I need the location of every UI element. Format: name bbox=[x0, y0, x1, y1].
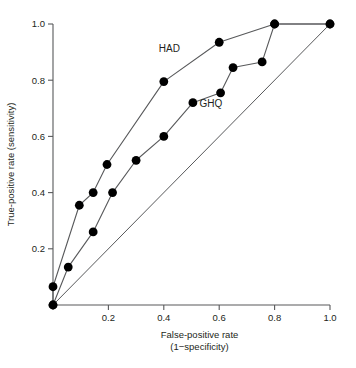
y-tick-label-0.4: 0.4 bbox=[32, 187, 45, 198]
annotation-had: HAD bbox=[159, 43, 180, 54]
point-had-6 bbox=[215, 38, 224, 47]
x-tick-label-0.4: 0.4 bbox=[157, 312, 170, 323]
point-ghq-6 bbox=[188, 98, 197, 107]
point-had-5 bbox=[159, 77, 168, 86]
y-tick-label-1.0: 1.0 bbox=[32, 18, 45, 29]
chance-diagonal bbox=[53, 24, 330, 305]
x-tick-label-0.2: 0.2 bbox=[102, 312, 115, 323]
y-tick-label-0.8: 0.8 bbox=[32, 75, 45, 86]
annotation-ghq: GHQ bbox=[199, 98, 222, 109]
point-ghq-2 bbox=[89, 228, 98, 237]
point-ghq-4 bbox=[132, 156, 141, 165]
x-tick-label-1.0: 1.0 bbox=[323, 312, 336, 323]
y-tick-label-0.2: 0.2 bbox=[32, 243, 45, 254]
x-axis-title: False-positive rate bbox=[161, 329, 239, 340]
y-axis-title: True-positive rate (sensitivity) bbox=[5, 103, 16, 227]
point-ghq-11 bbox=[326, 20, 335, 29]
y-tick-label-0.6: 0.6 bbox=[32, 131, 45, 142]
point-had-3 bbox=[89, 188, 98, 197]
point-had-4 bbox=[103, 160, 112, 169]
point-ghq-8 bbox=[229, 63, 238, 72]
x-axis-title-line2: (1−specificity) bbox=[170, 341, 228, 352]
point-had-1 bbox=[49, 282, 58, 291]
roc-curve-figure: 0.20.40.60.81.00.20.40.60.81.0 HADGHQ Fa… bbox=[0, 0, 356, 368]
x-tick-label-0.8: 0.8 bbox=[268, 312, 281, 323]
point-ghq-9 bbox=[258, 58, 267, 67]
point-ghq-7 bbox=[216, 88, 225, 97]
point-ghq-5 bbox=[159, 132, 168, 141]
point-ghq-10 bbox=[270, 20, 279, 29]
plot-canvas: 0.20.40.60.81.00.20.40.60.81.0 HADGHQ Fa… bbox=[0, 0, 356, 368]
point-ghq-1 bbox=[64, 263, 73, 272]
point-ghq-3 bbox=[108, 188, 117, 197]
point-had-2 bbox=[75, 201, 84, 210]
x-tick-label-0.6: 0.6 bbox=[213, 312, 226, 323]
reference-diagonal-line bbox=[53, 24, 330, 305]
point-ghq-0 bbox=[49, 301, 58, 310]
